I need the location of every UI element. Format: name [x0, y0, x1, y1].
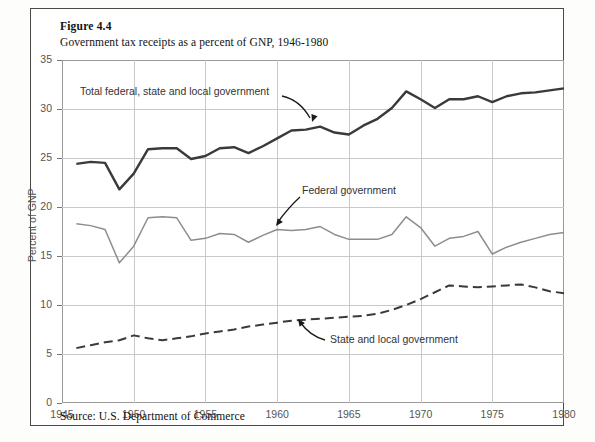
state-local-label: State and local government	[330, 333, 458, 345]
series-layer	[0, 0, 595, 442]
annotation-arrow	[282, 96, 310, 118]
series-line	[76, 88, 564, 189]
source-note: Source: U.S. Department of Commerce	[60, 410, 245, 422]
federal-label: Federal government	[302, 184, 396, 196]
annotation-arrowhead	[311, 114, 317, 122]
annotation-arrow	[278, 197, 300, 222]
figure-page: Figure 4.4 Government tax receipts as a …	[0, 0, 595, 442]
annotation-arrow	[300, 322, 325, 340]
total-label: Total federal, state and local governmen…	[80, 85, 269, 97]
series-line	[76, 217, 564, 263]
